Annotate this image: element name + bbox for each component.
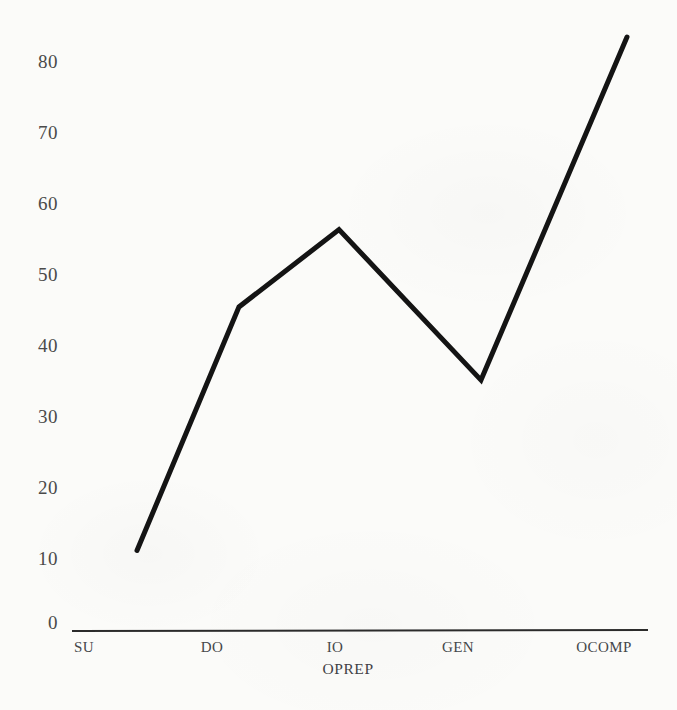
- x-axis-line: [72, 630, 648, 631]
- y-tick-label-30: 30: [16, 407, 58, 426]
- y-tick-label-10: 10: [16, 549, 58, 568]
- y-tick-label-20: 20: [16, 478, 58, 497]
- x-tick-label-su: SU: [74, 640, 94, 655]
- x-tick-label-gen: GEN: [442, 640, 474, 655]
- line-chart-plot: [0, 0, 677, 710]
- x-axis-line-group: [72, 630, 648, 631]
- data-series-group: [137, 37, 627, 550]
- y-tick-label-0: 0: [16, 613, 58, 632]
- chart-page: 80 70 60 50 40 30 20 10 0 SU DO IO GEN O…: [0, 0, 677, 710]
- y-tick-label-60: 60: [16, 194, 58, 213]
- x-tick-label-do: DO: [201, 640, 223, 655]
- data-line-series-1: [137, 37, 627, 550]
- y-tick-label-40: 40: [16, 336, 58, 355]
- x-tick-label-io: IO: [327, 640, 344, 655]
- y-tick-label-50: 50: [16, 265, 58, 284]
- x-axis-title: OPREP: [322, 661, 373, 677]
- y-tick-label-70: 70: [16, 123, 58, 142]
- y-tick-label-80: 80: [16, 52, 58, 71]
- x-tick-label-ocomp: OCOMP: [576, 640, 631, 655]
